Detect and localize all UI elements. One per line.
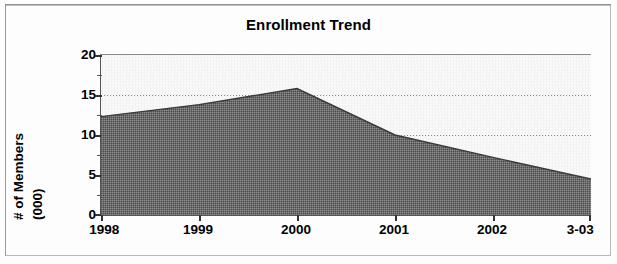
x-tick-mark-1998: [101, 215, 103, 221]
y-tick-label-10: 10: [62, 128, 96, 142]
x-tick-label-1998: 1998: [89, 222, 119, 237]
x-tick-mark-1999: [199, 215, 201, 221]
x-tick-mark-3-03: [589, 215, 591, 221]
x-tick-label-2000: 2000: [281, 222, 311, 237]
y-axis-title-line-1: # of Members: [11, 133, 26, 220]
area-series: [101, 55, 591, 215]
plot-area: [100, 55, 591, 216]
y-tick-label-5: 5: [62, 168, 96, 182]
y-tick-label-0: 0: [62, 208, 96, 222]
x-tick-label-3-03: 3-03: [567, 222, 594, 237]
chart-screenshot: Enrollment Trend # of Members (000) 0 5 …: [0, 0, 617, 264]
x-tick-mark-2001: [395, 215, 397, 221]
y-axis-title-line-2: (000): [30, 188, 45, 220]
x-tick-mark-2002: [493, 215, 495, 221]
x-tick-mark-2000: [297, 215, 299, 221]
y-axis-title: # of Members (000): [12, 50, 56, 220]
x-tick-label-2002: 2002: [477, 222, 507, 237]
y-tick-label-20: 20: [62, 48, 96, 62]
x-tick-label-2001: 2001: [379, 222, 409, 237]
y-tick-label-15: 15: [62, 88, 96, 102]
x-tick-label-1999: 1999: [183, 222, 213, 237]
